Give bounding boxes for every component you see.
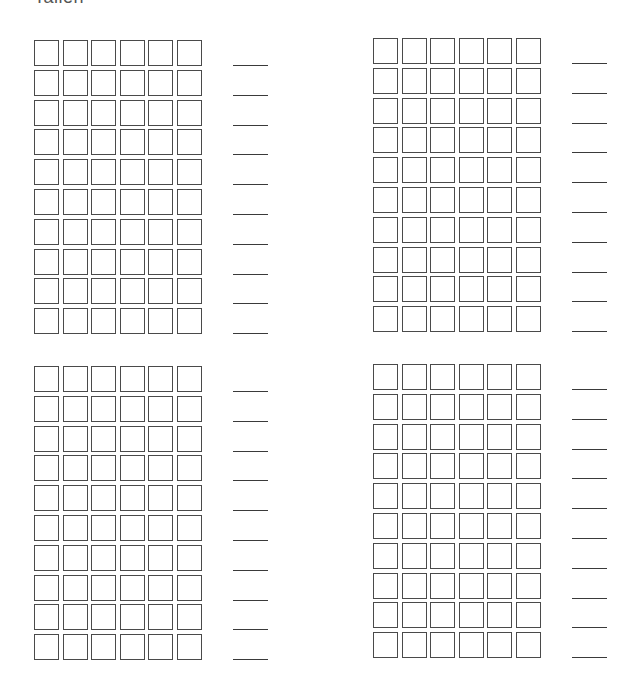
tally-box[interactable] <box>148 366 173 392</box>
tally-box[interactable] <box>34 426 59 452</box>
tally-box[interactable] <box>177 545 202 571</box>
tally-box[interactable] <box>402 38 427 64</box>
tally-box[interactable] <box>516 38 541 64</box>
tally-box[interactable] <box>177 426 202 452</box>
tally-box[interactable] <box>91 366 116 392</box>
answer-line[interactable] <box>233 303 268 304</box>
answer-line[interactable] <box>572 657 607 658</box>
tally-box[interactable] <box>459 68 484 94</box>
tally-box[interactable] <box>148 426 173 452</box>
tally-box[interactable] <box>459 276 484 302</box>
tally-box[interactable] <box>34 308 59 334</box>
tally-box[interactable] <box>120 604 145 630</box>
answer-line[interactable] <box>572 272 607 273</box>
tally-box[interactable] <box>430 306 455 332</box>
tally-box[interactable] <box>487 543 512 569</box>
tally-box[interactable] <box>177 189 202 215</box>
tally-box[interactable] <box>459 483 484 509</box>
answer-line[interactable] <box>572 93 607 94</box>
tally-box[interactable] <box>63 40 88 66</box>
tally-box[interactable] <box>402 364 427 390</box>
tally-box[interactable] <box>516 394 541 420</box>
tally-box[interactable] <box>516 217 541 243</box>
tally-box[interactable] <box>34 455 59 481</box>
answer-line[interactable] <box>233 274 268 275</box>
tally-box[interactable] <box>373 602 398 628</box>
answer-line[interactable] <box>233 659 268 660</box>
tally-box[interactable] <box>459 424 484 450</box>
tally-box[interactable] <box>148 515 173 541</box>
tally-box[interactable] <box>63 278 88 304</box>
tally-box[interactable] <box>91 485 116 511</box>
tally-box[interactable] <box>459 602 484 628</box>
tally-box[interactable] <box>402 483 427 509</box>
tally-box[interactable] <box>148 70 173 96</box>
tally-box[interactable] <box>516 306 541 332</box>
tally-box[interactable] <box>120 219 145 245</box>
tally-box[interactable] <box>373 38 398 64</box>
tally-box[interactable] <box>120 426 145 452</box>
tally-box[interactable] <box>459 453 484 479</box>
tally-box[interactable] <box>63 426 88 452</box>
tally-box[interactable] <box>430 364 455 390</box>
tally-box[interactable] <box>373 364 398 390</box>
tally-box[interactable] <box>516 247 541 273</box>
tally-box[interactable] <box>63 249 88 275</box>
tally-box[interactable] <box>373 157 398 183</box>
tally-box[interactable] <box>120 249 145 275</box>
tally-box[interactable] <box>63 396 88 422</box>
answer-line[interactable] <box>572 331 607 332</box>
answer-line[interactable] <box>233 65 268 66</box>
tally-box[interactable] <box>148 634 173 660</box>
tally-box[interactable] <box>34 634 59 660</box>
tally-box[interactable] <box>63 515 88 541</box>
tally-box[interactable] <box>487 38 512 64</box>
tally-box[interactable] <box>430 602 455 628</box>
tally-box[interactable] <box>516 68 541 94</box>
tally-box[interactable] <box>430 632 455 658</box>
answer-line[interactable] <box>233 244 268 245</box>
answer-line[interactable] <box>572 538 607 539</box>
tally-box[interactable] <box>34 575 59 601</box>
answer-line[interactable] <box>572 419 607 420</box>
tally-box[interactable] <box>120 515 145 541</box>
tally-box[interactable] <box>430 573 455 599</box>
tally-box[interactable] <box>148 159 173 185</box>
tally-box[interactable] <box>373 424 398 450</box>
tally-box[interactable] <box>34 40 59 66</box>
tally-box[interactable] <box>177 70 202 96</box>
tally-box[interactable] <box>120 129 145 155</box>
tally-box[interactable] <box>516 276 541 302</box>
tally-box[interactable] <box>177 455 202 481</box>
tally-box[interactable] <box>459 247 484 273</box>
tally-box[interactable] <box>177 100 202 126</box>
tally-box[interactable] <box>402 632 427 658</box>
tally-box[interactable] <box>516 573 541 599</box>
tally-box[interactable] <box>34 159 59 185</box>
tally-box[interactable] <box>487 453 512 479</box>
tally-box[interactable] <box>516 157 541 183</box>
tally-box[interactable] <box>430 276 455 302</box>
tally-box[interactable] <box>459 364 484 390</box>
tally-box[interactable] <box>34 129 59 155</box>
tally-box[interactable] <box>430 483 455 509</box>
tally-box[interactable] <box>459 217 484 243</box>
tally-box[interactable] <box>34 100 59 126</box>
tally-box[interactable] <box>91 278 116 304</box>
answer-line[interactable] <box>233 451 268 452</box>
answer-line[interactable] <box>572 389 607 390</box>
tally-box[interactable] <box>487 187 512 213</box>
tally-box[interactable] <box>91 159 116 185</box>
tally-box[interactable] <box>91 219 116 245</box>
tally-box[interactable] <box>34 70 59 96</box>
tally-box[interactable] <box>459 187 484 213</box>
tally-box[interactable] <box>120 70 145 96</box>
tally-box[interactable] <box>120 634 145 660</box>
tally-box[interactable] <box>373 98 398 124</box>
tally-box[interactable] <box>63 100 88 126</box>
tally-box[interactable] <box>63 129 88 155</box>
tally-box[interactable] <box>148 396 173 422</box>
tally-box[interactable] <box>402 306 427 332</box>
tally-box[interactable] <box>373 573 398 599</box>
tally-box[interactable] <box>91 70 116 96</box>
